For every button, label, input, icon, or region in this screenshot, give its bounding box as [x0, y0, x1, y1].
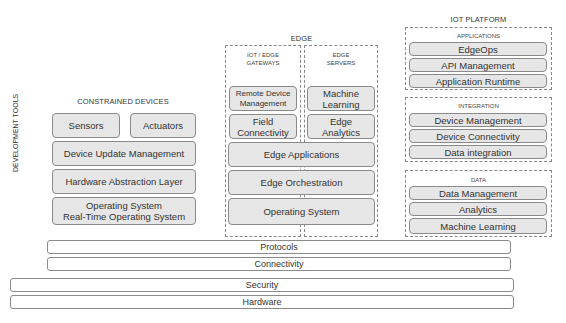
application-runtime-box: Application Runtime	[409, 74, 547, 88]
gateways-title: IOT / EDGE GATEWAYS	[225, 51, 301, 67]
data-title: DATA	[405, 176, 552, 184]
constrained-os-box: Operating System Real-Time Operating Sys…	[52, 197, 196, 225]
edge-title: EDGE	[225, 34, 378, 43]
platform-machine-learning-box: Machine Learning	[409, 218, 547, 234]
constrained-devices-title: CONSTRAINED DEVICES	[50, 97, 196, 106]
edge-orchestration-box: Edge Orchestration	[228, 170, 375, 195]
edgeops-box: EdgeOps	[409, 42, 547, 56]
analytics-box: Analytics	[409, 202, 547, 216]
device-update-management-box: Device Update Management	[52, 141, 196, 166]
hardware-layer: Hardware	[10, 295, 514, 309]
connectivity-layer: Connectivity	[47, 257, 511, 271]
protocols-layer: Protocols	[47, 240, 511, 254]
remote-device-management-box: Remote Device Management	[229, 86, 297, 111]
edge-applications-box: Edge Applications	[228, 142, 375, 167]
hardware-abstraction-layer-box: Hardware Abstraction Layer	[52, 169, 196, 194]
applications-title: APPLICATIONS	[405, 32, 552, 40]
edge-analytics-box: Edge Analytics	[307, 114, 375, 139]
api-management-box: API Management	[409, 58, 547, 72]
sensors-box: Sensors	[52, 113, 120, 138]
iot-platform-title: IOT PLATFORM	[405, 15, 552, 24]
edge-operating-system-box: Operating System	[228, 198, 375, 225]
device-connectivity-box: Device Connectivity	[409, 129, 547, 143]
data-management-box: Data Management	[409, 186, 547, 200]
edge-machine-learning-box: Machine Learning	[307, 86, 375, 111]
integration-title: INTEGRATION	[405, 102, 552, 110]
device-management-box: Device Management	[409, 113, 547, 127]
field-connectivity-box: Field Connectivity	[229, 114, 297, 139]
development-tools-label: DEVELOPMENT TOOLS	[12, 94, 19, 172]
actuators-box: Actuators	[130, 113, 196, 138]
edge-servers-title: EDGE SERVERS	[304, 51, 378, 67]
constrained-os-line1: Operating System	[86, 200, 162, 211]
constrained-os-line2: Real-Time Operating System	[63, 211, 185, 222]
security-layer: Security	[10, 278, 514, 292]
data-integration-box: Data integration	[409, 145, 547, 159]
